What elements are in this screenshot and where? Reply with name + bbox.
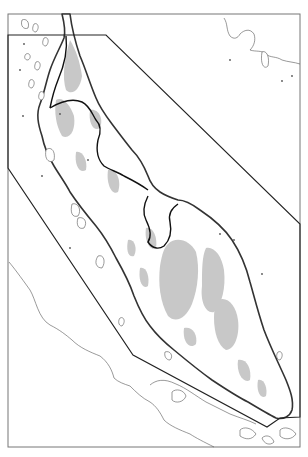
islet-east: [277, 352, 282, 360]
islet: [261, 273, 263, 275]
islet: [233, 239, 235, 241]
islet: [219, 233, 221, 235]
map-canvas: [0, 0, 308, 457]
island-south: [172, 390, 186, 402]
islet: [281, 80, 283, 82]
islet: [291, 75, 293, 77]
islet: [229, 59, 231, 61]
northeast-island: [261, 52, 268, 68]
islands-southeast: [240, 428, 296, 444]
